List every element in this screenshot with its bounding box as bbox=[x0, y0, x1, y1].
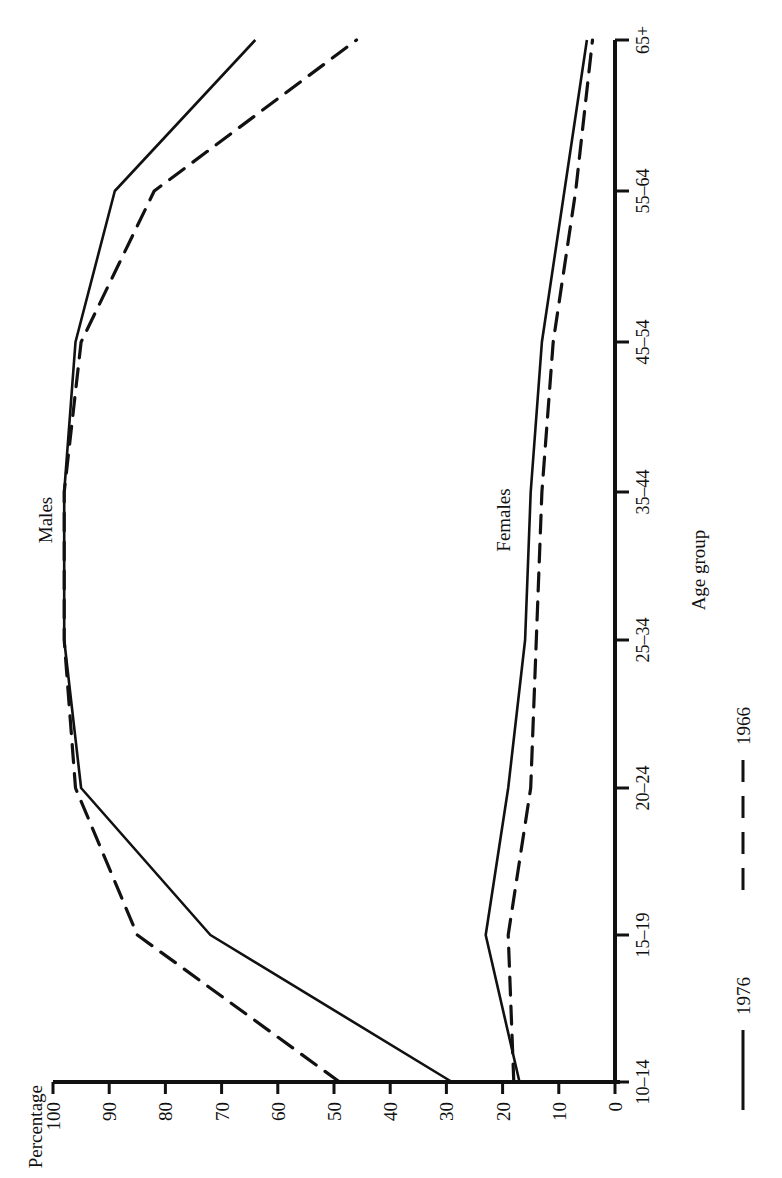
x-axis-title: Age group bbox=[688, 530, 709, 611]
females-label: Females bbox=[493, 488, 514, 551]
labour-participation-chart: 010203040506070809010010–1415–1920–2425–… bbox=[0, 0, 782, 1178]
value-tick-label: 100 bbox=[43, 1102, 64, 1131]
category-tick-label: 65+ bbox=[633, 26, 653, 54]
y-axis-title: Percentage bbox=[25, 1085, 46, 1168]
males-1976-line bbox=[64, 40, 452, 1082]
value-tick-label: 90 bbox=[99, 1102, 120, 1121]
category-tick-label: 20–24 bbox=[633, 766, 653, 811]
legend-label-1966: 1966 bbox=[733, 707, 754, 745]
value-tick-label: 0 bbox=[605, 1102, 626, 1112]
value-tick-label: 70 bbox=[212, 1102, 233, 1121]
series-lines bbox=[64, 40, 592, 1082]
value-tick-label: 80 bbox=[155, 1102, 176, 1121]
females-1976-line bbox=[486, 40, 587, 1082]
legend-label-1976: 1976 bbox=[733, 977, 754, 1015]
value-tick-label: 30 bbox=[436, 1102, 457, 1121]
category-tick-label: 10–14 bbox=[633, 1060, 653, 1105]
category-tick-label: 35–44 bbox=[633, 470, 653, 515]
category-tick-label: 25–34 bbox=[633, 618, 653, 663]
category-tick-label: 15–19 bbox=[633, 913, 653, 958]
tick-labels: 010203040506070809010010–1415–1920–2425–… bbox=[43, 26, 653, 1131]
females-1966-line bbox=[508, 40, 592, 1082]
males-label: Males bbox=[35, 497, 56, 543]
value-tick-label: 10 bbox=[549, 1102, 570, 1121]
males-1966-line bbox=[64, 40, 356, 1082]
category-tick-label: 55–64 bbox=[633, 169, 653, 214]
value-tick-label: 20 bbox=[493, 1102, 514, 1121]
value-tick-label: 50 bbox=[324, 1102, 345, 1121]
legend: 1976 1966 bbox=[733, 707, 754, 1110]
category-tick-label: 45–54 bbox=[633, 320, 653, 365]
value-tick-label: 40 bbox=[380, 1102, 401, 1121]
value-tick-label: 60 bbox=[268, 1102, 289, 1121]
